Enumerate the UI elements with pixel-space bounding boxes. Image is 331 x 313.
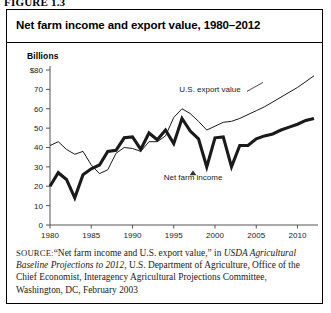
x-axis-tick-label: 2010 xyxy=(289,231,307,239)
x-axis-tick-label: 1990 xyxy=(124,231,142,239)
figure-bordered-box: Net farm income and export value, 1980–2… xyxy=(6,9,323,304)
line-chart-svg: $807060504030201001980198519901995200020… xyxy=(7,43,322,239)
source-kicker: SOURCE: xyxy=(16,248,54,258)
x-axis-tick-label: 2005 xyxy=(247,231,265,239)
source-text-part1: “Net farm income and U.S. export value,”… xyxy=(54,248,224,258)
y-axis-tick-label: $80 xyxy=(30,66,44,75)
figure-root: FIGURE 1.3 Net farm income and export va… xyxy=(0,0,331,313)
y-axis-tick-label: 60 xyxy=(34,105,43,114)
chart-title: Net farm income and export value, 1980–2… xyxy=(16,19,322,31)
y-axis-tick-label: 50 xyxy=(34,124,43,133)
source-note: SOURCE:“Net farm income and U.S. export … xyxy=(16,247,314,296)
title-band: Net farm income and export value, 1980–2… xyxy=(7,19,322,31)
plot-area: Billions $807060504030201001980198519901… xyxy=(7,43,322,239)
series-line-net-farm-income xyxy=(50,118,314,197)
annotation-leader-line-export xyxy=(247,82,263,91)
x-axis-tick-label: 2000 xyxy=(206,231,224,239)
x-axis-tick-label: 1995 xyxy=(165,231,183,239)
series-annotation-us-export-value: U.S. export value xyxy=(179,85,241,94)
y-axis-tick-label: 0 xyxy=(39,221,44,230)
y-axis-tick-label: 70 xyxy=(34,85,43,94)
y-axis-tick-label: 10 xyxy=(34,202,43,211)
figure-number-label: FIGURE 1.3 xyxy=(4,0,65,8)
x-axis-tick-label: 1980 xyxy=(41,231,59,239)
x-axis-tick-label: 1985 xyxy=(82,231,100,239)
y-axis-tick-label: 40 xyxy=(34,143,43,152)
y-axis-tick-label: 20 xyxy=(34,182,43,191)
y-axis-tick-label: 30 xyxy=(34,163,43,172)
